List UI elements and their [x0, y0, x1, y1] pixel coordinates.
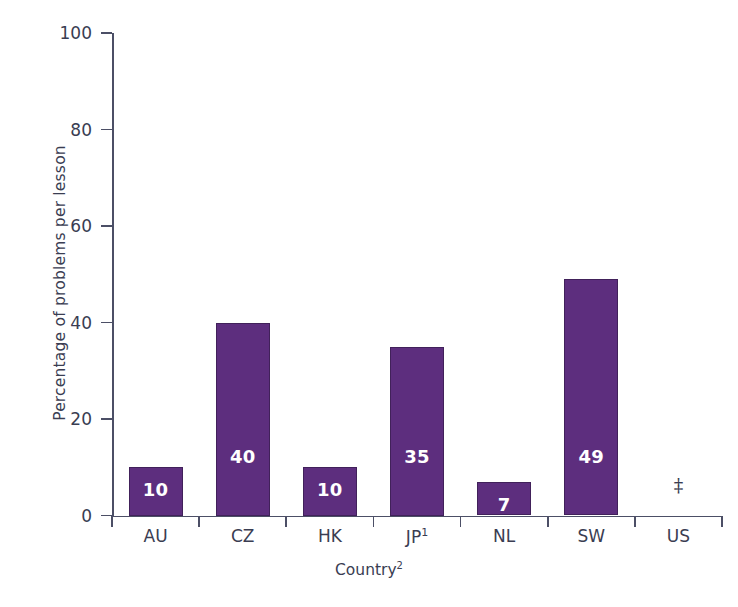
x-category-jp: JP1 — [406, 526, 428, 547]
y-tick-60 — [101, 225, 112, 227]
y-tick-100 — [101, 32, 112, 34]
x-axis-title: Country2 — [0, 560, 738, 579]
y-tick-label-60: 60 — [22, 216, 92, 236]
y-tick-40 — [101, 322, 112, 324]
x-category-au: AU — [144, 526, 168, 546]
y-axis-line — [112, 33, 114, 517]
x-category-hk: HK — [318, 526, 342, 546]
x-category-cz: CZ — [231, 526, 255, 546]
bar-value-jp: 35 — [404, 446, 430, 467]
x-category-sw: SW — [577, 526, 605, 546]
x-tick-5 — [547, 516, 549, 527]
bar-jp — [390, 347, 444, 516]
bar-sw — [564, 279, 618, 515]
x-category-label: US — [667, 526, 690, 546]
x-category-label: SW — [577, 526, 605, 546]
x-tick-0 — [111, 516, 113, 527]
bar-value-hk: 10 — [317, 479, 343, 500]
x-tick-2 — [285, 516, 287, 527]
x-category-label: JP — [406, 527, 421, 547]
x-category-label: NL — [493, 526, 515, 546]
x-category-label: CZ — [231, 526, 255, 546]
x-category-label: HK — [318, 526, 342, 546]
bar-value-au: 10 — [143, 479, 169, 500]
y-tick-label-40: 40 — [22, 313, 92, 333]
x-category-us: US — [667, 526, 690, 546]
x-tick-6 — [634, 516, 636, 527]
x-tick-4 — [460, 516, 462, 527]
x-category-nl: NL — [493, 526, 515, 546]
x-axis-title-text: Country — [335, 561, 397, 579]
bar-value-sw: 49 — [578, 446, 604, 467]
x-axis-line — [112, 516, 722, 518]
x-tick-3 — [373, 516, 375, 527]
x-tick-1 — [198, 516, 200, 527]
x-tick-7 — [721, 516, 723, 527]
bar-value-cz: 40 — [230, 446, 256, 467]
y-tick-label-0: 0 — [22, 506, 92, 526]
x-category-label: AU — [144, 526, 168, 546]
bar-chart: Percentage of problems per lesson 020406… — [0, 0, 738, 607]
y-tick-label-80: 80 — [22, 120, 92, 140]
y-tick-label-20: 20 — [22, 409, 92, 429]
y-tick-label-100: 100 — [22, 23, 92, 43]
bar-cz — [216, 323, 270, 516]
x-axis-title-superscript: 2 — [397, 560, 403, 571]
bar-value-nl: 7 — [498, 494, 511, 515]
y-tick-20 — [101, 418, 112, 420]
bar-suppressed-us: ‡ — [674, 474, 684, 496]
y-tick-80 — [101, 129, 112, 131]
x-category-superscript: 1 — [421, 526, 428, 539]
